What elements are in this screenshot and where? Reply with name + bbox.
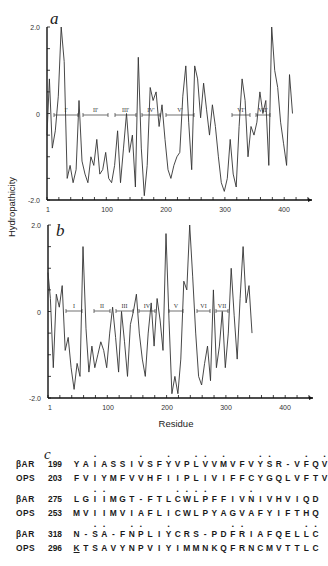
tm-segment-label: IV [144, 303, 151, 309]
tm-segment-label: VI' [237, 107, 244, 113]
xtick-label-b-100: 100 [102, 404, 114, 411]
sequence-start: 253 [48, 508, 62, 518]
xtick-label-a-200: 200 [160, 206, 172, 213]
panel-letter-a: a [50, 9, 59, 28]
sequence-start: 199 [48, 459, 62, 469]
sequence-name: βAR [16, 494, 35, 504]
tm-segment-label: III' [122, 107, 129, 113]
sequence-start: 203 [48, 473, 62, 483]
hydropathy-line-b [48, 225, 252, 394]
tm-segment-label: VII' [258, 107, 267, 113]
hydropathy-line-a [47, 27, 293, 196]
tm-segment-label: II' [93, 107, 98, 113]
tm-segment-label: VI [200, 303, 206, 309]
ytick-label-b-bottom: -2.0 [29, 395, 41, 402]
xtick-label-a-100: 100 [101, 206, 113, 213]
sequence-start: 296 [48, 543, 62, 553]
ytick-label-b-top: 2.0 [31, 222, 41, 229]
xtick-label-b-200: 200 [161, 404, 173, 411]
tm-segment-label: II [100, 303, 104, 309]
tm-segment-label: V [174, 303, 179, 309]
tm-segments-b: IIIIIIIVVVIVII [66, 303, 228, 313]
tm-segment-label: III [122, 303, 128, 309]
tm-segment-label: VII [218, 303, 226, 309]
tm-segment-label: V' [177, 107, 182, 113]
sequence-residues: KTSAVYNPVIYIMMNKQFRNCMVTTLC [72, 543, 320, 553]
x-axis-title: Residue [159, 418, 194, 429]
sequence-start: 275 [48, 494, 62, 504]
tm-segment-label: IV' [147, 107, 154, 113]
chart-b: b 2.0 0 -2.0 1 100 200 300 400 IIIIIIIVV… [29, 221, 313, 411]
sequence-residues: YAIASSIVSFYVPLVVMVFVYSR-VFQV [72, 459, 328, 469]
sequence-residues: N-SA-FNPLIYCRS-PDFRIAFQELLC [72, 529, 320, 539]
sequence-name: βAR [16, 529, 35, 539]
xtick-label-b-1: 1 [48, 404, 52, 411]
sequence-name: OPS [16, 473, 35, 483]
xtick-label-b-300: 300 [220, 404, 232, 411]
tm-segment-label: I [73, 303, 75, 309]
ytick-label-b-zero: 0 [37, 309, 41, 316]
xtick-label-b-400: 400 [279, 404, 291, 411]
chart-a: a 2.0 0 -2.0 1 100 200 300 400 I'II'III'… [28, 9, 312, 213]
y-axis-title: Hydropathicity [6, 177, 17, 237]
xtick-label-a-400: 400 [278, 206, 290, 213]
ytick-label-a-zero: 0 [36, 111, 40, 118]
sequence-name: βAR [16, 459, 35, 469]
sequence-residues: FVIYMFVVHFIIPLIVIFFCYGQLVFTV [72, 473, 328, 483]
ytick-label-a-bottom: -2.0 [28, 197, 40, 204]
tm-segment-label: I' [64, 107, 67, 113]
xtick-label-a-1: 1 [46, 206, 50, 213]
sequence-name: OPS [16, 508, 35, 518]
ytick-label-a-top: 2.0 [30, 24, 40, 31]
sequence-start: 318 [48, 529, 62, 539]
xtick-label-a-300: 300 [219, 206, 231, 213]
sequence-residues: MVIIMVIAFLICWLPYAGVAFYIFTHQ [72, 508, 320, 518]
hydropathy-charts: a 2.0 0 -2.0 1 100 200 300 400 I'II'III'… [0, 0, 328, 430]
sequence-residues: LGIIMGT-FTLCWLPFFIVNIVHVIQD [72, 494, 320, 504]
sequence-name: OPS [16, 543, 35, 553]
panel-letter-b: b [56, 221, 65, 240]
